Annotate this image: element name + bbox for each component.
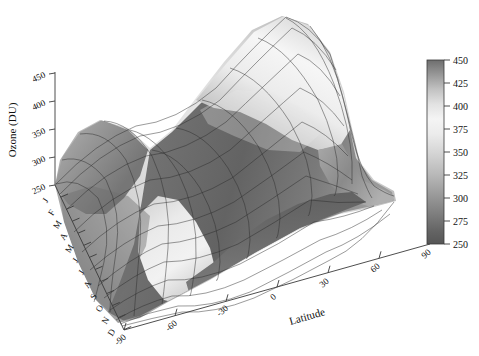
latitude-tick-30: 30 <box>317 276 331 290</box>
latitude-tick-60: 60 <box>368 261 382 275</box>
colorbar-tick-325: 325 <box>453 170 468 181</box>
colorbar-tick-275: 275 <box>453 216 468 227</box>
ozone-tick-450: 450 <box>30 69 47 84</box>
latitude-tick-m30: -30 <box>214 303 230 319</box>
ozone-surface-figure: 250 300 350 400 450 Ozone (DU) <box>0 0 479 356</box>
ozone-axis-title: Ozone (DU) <box>6 102 19 157</box>
surface-plot-svg: 250 300 350 400 450 Ozone (DU) <box>0 0 479 356</box>
latitude-axis-title: Latitude <box>288 305 327 327</box>
colorbar-tick-350: 350 <box>453 147 468 158</box>
month-tick-feb: F <box>46 208 57 218</box>
colorbar-gradient <box>427 60 444 244</box>
month-tick-nov: N <box>99 315 111 326</box>
colorbar-ticks <box>444 60 450 244</box>
ozone-tick-400: 400 <box>30 97 47 112</box>
colorbar-tick-425: 425 <box>453 78 468 89</box>
ozone-tick-350: 350 <box>30 125 47 140</box>
latitude-tick-0: 0 <box>268 291 278 302</box>
colorbar-tick-300: 300 <box>453 193 468 204</box>
month-tick-jan: J <box>40 196 51 205</box>
colorbar-tick-375: 375 <box>453 124 468 135</box>
ozone-tick-300: 300 <box>30 153 47 168</box>
latitude-tick-m60: -60 <box>163 318 179 334</box>
colorbar-tick-450: 450 <box>453 55 468 66</box>
latitude-tick-90: 90 <box>419 247 433 261</box>
ozone-axis: 250 300 350 400 450 Ozone (DU) <box>6 69 55 196</box>
colorbar: 250 275 300 325 350 375 400 425 450 <box>427 55 468 250</box>
colorbar-tick-400: 400 <box>453 101 468 112</box>
colorbar-tick-250: 250 <box>453 239 468 250</box>
ozone-tick-250: 250 <box>30 181 47 196</box>
month-tick-mar: M <box>51 218 64 230</box>
